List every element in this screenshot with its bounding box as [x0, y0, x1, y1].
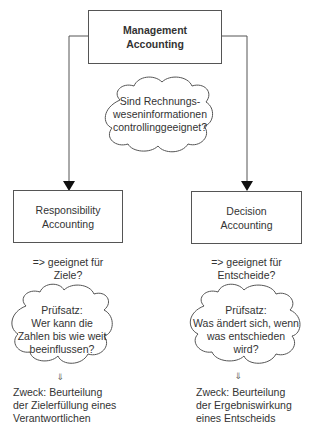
purpose-left-line1: Zweck: Beurteilung — [13, 386, 163, 399]
purpose-left-line2: der Zielerfüllung eines — [13, 399, 163, 412]
purpose-right-line2: der Ergebniswirkung — [196, 399, 316, 412]
arrowhead-right-icon — [241, 181, 253, 191]
suitability-left-line2: Ziele? — [13, 269, 123, 282]
central-question-text: Sind Rechnungs- weseninformationen contr… — [108, 95, 212, 134]
responsibility-box-line1: Responsibility — [36, 203, 101, 217]
responsibility-box-line2: Accounting — [42, 217, 94, 231]
box-responsibility-accounting: Responsibility Accounting — [13, 190, 123, 243]
root-label-line2: Accounting — [126, 37, 184, 51]
central-question-line3: controllinggeeignet? — [108, 121, 212, 134]
suitability-left: => geeignet für Ziele? — [13, 256, 123, 282]
purpose-right: Zweck: Beurteilung der Ergebniswirkung e… — [196, 386, 316, 425]
test-text-left: Prüfsatz: Wer kann die Zahlen bis wie we… — [10, 304, 114, 356]
test-left-line4: beeinflussen? — [10, 343, 114, 356]
suitability-right: => geeignet für Entscheide? — [191, 256, 302, 282]
decision-box-line1: Decision — [226, 204, 266, 218]
suitability-left-line1: => geeignet für — [13, 256, 123, 269]
suitability-right-line1: => geeignet für — [191, 256, 302, 269]
double-arrow-down-left-icon: ⇓ — [50, 371, 70, 384]
double-arrow-down-right-icon: ⇓ — [228, 370, 248, 383]
management-accounting-diagram: Management Accounting Sind Rechnungs- we… — [0, 0, 316, 438]
central-question-line2: weseninformationen — [108, 108, 212, 121]
purpose-right-line3: eines Entscheids — [196, 412, 316, 425]
test-left-line2: Wer kann die — [10, 317, 114, 330]
connector-left — [69, 36, 88, 182]
suitability-right-line2: Entscheide? — [191, 269, 302, 282]
box-decision-accounting: Decision Accounting — [191, 191, 302, 244]
test-left-line1: Prüfsatz: — [10, 304, 114, 317]
test-text-right: Prüfsatz: Was ändert sich, wenn was ents… — [186, 304, 306, 356]
test-left-line3: Zahlen bis wie weit — [10, 330, 114, 343]
purpose-right-line1: Zweck: Beurteilung — [196, 386, 316, 399]
connector-right — [222, 36, 247, 182]
root-box-management-accounting: Management Accounting — [88, 10, 222, 64]
test-right-line4: wird? — [186, 343, 306, 356]
root-label-line1: Management — [123, 23, 187, 37]
test-right-line3: was entschieden — [186, 330, 306, 343]
purpose-left-line3: Verantwortlichen — [13, 412, 163, 425]
central-question-line1: Sind Rechnungs- — [108, 95, 212, 108]
test-right-line1: Prüfsatz: — [186, 304, 306, 317]
decision-box-line2: Accounting — [221, 218, 273, 232]
purpose-left: Zweck: Beurteilung der Zielerfüllung ein… — [13, 386, 163, 425]
test-right-line2: Was ändert sich, wenn — [186, 317, 306, 330]
